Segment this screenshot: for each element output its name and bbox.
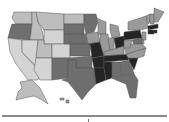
footer-divider	[2, 115, 167, 117]
state-wa[interactable]	[12, 12, 32, 24]
state-hi[interactable]	[60, 98, 69, 103]
state-ri[interactable]	[154, 30, 157, 33]
state-wy[interactable]	[44, 30, 64, 44]
state-nh[interactable]	[150, 14, 154, 24]
state-ct[interactable]	[148, 30, 154, 34]
state-ny[interactable]	[128, 16, 148, 30]
state-nj[interactable]	[142, 32, 146, 40]
state-mn[interactable]	[84, 14, 98, 34]
state-ar[interactable]	[92, 56, 104, 68]
us-choropleth-map	[0, 0, 169, 110]
state-ks[interactable]	[70, 44, 90, 56]
state-ma[interactable]	[148, 24, 158, 30]
state-or[interactable]	[8, 24, 32, 40]
state-nm[interactable]	[52, 58, 68, 80]
state-sd[interactable]	[64, 24, 84, 34]
state-co[interactable]	[52, 44, 70, 58]
state-wi[interactable]	[96, 18, 106, 34]
state-fl[interactable]	[112, 74, 138, 98]
state-mi[interactable]	[110, 24, 120, 38]
footer-tick-mark	[88, 119, 89, 122]
state-ak[interactable]	[16, 80, 48, 104]
state-ne[interactable]	[64, 34, 88, 44]
state-de[interactable]	[142, 40, 144, 44]
state-me[interactable]	[154, 8, 164, 22]
state-nd[interactable]	[64, 14, 84, 24]
